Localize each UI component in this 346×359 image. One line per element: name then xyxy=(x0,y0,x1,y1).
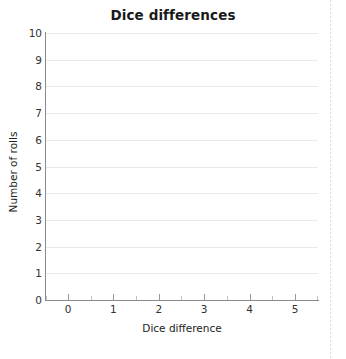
chart-title: Dice differences xyxy=(0,7,346,23)
bars-layer xyxy=(46,33,318,300)
x-axis-tick-label: 3 xyxy=(189,303,219,315)
y-axis-tick-label: 1 xyxy=(4,267,42,279)
x-axis-line xyxy=(46,300,319,301)
y-axis-tick-label: 0 xyxy=(4,294,42,306)
x-axis-tick-label: 2 xyxy=(144,303,174,315)
x-axis-tick-label: 5 xyxy=(280,303,310,315)
y-axis-line xyxy=(45,32,46,301)
chart-container: Dice differences 10 9 8 7 6 5 4 3 2 1 0 … xyxy=(0,0,346,359)
x-axis-minor-tick xyxy=(46,296,47,300)
y-axis-tick-label: 8 xyxy=(4,80,42,92)
x-axis-major-tick xyxy=(68,294,69,300)
x-axis-major-tick xyxy=(159,294,160,300)
y-axis-title: Number of rolls xyxy=(7,102,19,242)
x-axis-major-tick xyxy=(113,294,114,300)
x-axis-tick-label: 0 xyxy=(53,303,83,315)
x-axis-major-tick xyxy=(295,294,296,300)
page-edge-artifact xyxy=(330,0,331,359)
x-axis-minor-tick xyxy=(227,296,228,300)
y-axis-tick-label: 9 xyxy=(4,54,42,66)
x-axis-minor-tick xyxy=(272,296,273,300)
x-axis-major-tick xyxy=(204,294,205,300)
y-axis-tick-label: 10 xyxy=(4,27,42,39)
x-axis-tick-label: 1 xyxy=(98,303,128,315)
x-axis-minor-tick xyxy=(181,296,182,300)
x-axis-minor-tick xyxy=(136,296,137,300)
x-axis-minor-tick xyxy=(317,296,318,300)
y-axis-tick-label: 2 xyxy=(4,241,42,253)
x-axis-major-tick xyxy=(250,294,251,300)
x-axis-title: Dice difference xyxy=(46,322,318,334)
x-axis-tick-label: 4 xyxy=(235,303,265,315)
x-axis-minor-tick xyxy=(91,296,92,300)
plot-area xyxy=(46,33,318,300)
